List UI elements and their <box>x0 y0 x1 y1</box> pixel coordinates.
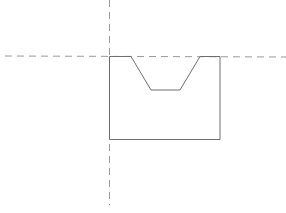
background <box>0 0 286 213</box>
diagram-canvas <box>0 0 286 213</box>
